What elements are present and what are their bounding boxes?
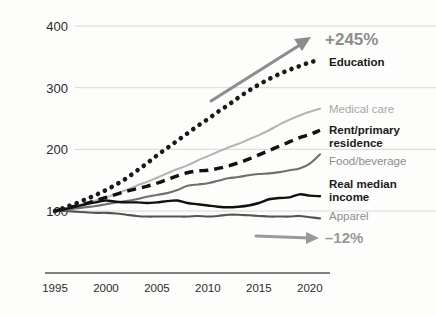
decline-arrow-icon — [256, 232, 319, 244]
x-tick-label: 1995 — [42, 282, 68, 294]
y-tick-label: 300 — [46, 81, 68, 96]
series-label: Food/beverage — [329, 155, 406, 167]
series-line — [55, 60, 320, 211]
decline-callout-value: –12% — [325, 229, 363, 246]
chart-container: 100200300400 199520002005201020152020 Ed… — [0, 0, 436, 315]
growth-callout-value: +245% — [325, 30, 378, 49]
x-tick-label: 2020 — [297, 282, 323, 294]
line-chart: 100200300400 199520002005201020152020 Ed… — [0, 0, 436, 315]
growth-arrow-icon — [211, 37, 311, 101]
y-tick-label: 400 — [46, 19, 68, 34]
y-tick-label: 200 — [46, 142, 68, 157]
series-label: Medical care — [329, 103, 394, 115]
x-axis-tick-labels: 199520002005201020152020 — [42, 282, 322, 294]
series-label: Real medianincome — [329, 178, 397, 203]
series-label: Education — [329, 56, 385, 68]
series-label: Apparel — [329, 210, 369, 222]
series-line — [55, 211, 320, 218]
x-tick-label: 2005 — [144, 282, 170, 294]
y-axis-tick-labels: 100200300400 — [46, 19, 68, 219]
series-line — [55, 194, 320, 211]
x-tick-label: 2000 — [93, 282, 119, 294]
x-tick-label: 2010 — [195, 282, 221, 294]
x-tick-label: 2015 — [246, 282, 272, 294]
series-line — [55, 109, 320, 211]
series-text-labels: EducationMedical careRent/primaryresiden… — [329, 56, 406, 222]
series-label: Rent/primaryresidence — [329, 124, 401, 149]
series-lines — [55, 60, 320, 218]
annotation-arrows — [211, 37, 319, 244]
